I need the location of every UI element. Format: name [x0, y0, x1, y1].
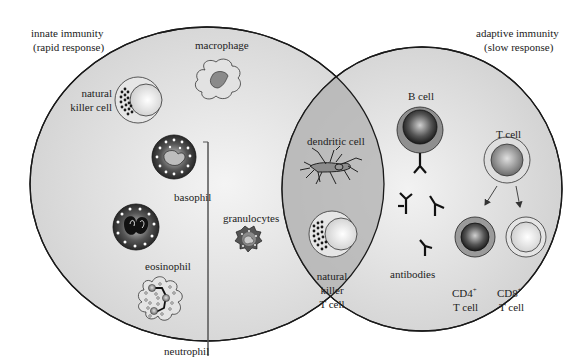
cd8-t-cell-icon — [506, 217, 546, 257]
innate-immunity-sublabel: (rapid response) — [33, 41, 104, 54]
innate-immunity-label: innate immunity — [31, 27, 103, 40]
cd8-t-cell-label: CD8+ — [497, 287, 522, 300]
natural-killer-cell-label-line2: killer cell — [52, 101, 112, 114]
natural-killer-cell-icon — [115, 77, 162, 123]
cd8-label-sup: + — [518, 286, 522, 294]
cd4-label-sup: + — [473, 286, 477, 294]
adaptive-immunity-label: adaptive immunity — [476, 27, 559, 40]
cd4-t-cell-label: CD4+ — [452, 287, 477, 300]
eosinophil-label: eosinophil — [145, 260, 191, 273]
eosinophil-cell-icon — [113, 204, 159, 250]
cd8-label-main: CD8 — [497, 287, 518, 299]
cd4-t-cell-label-line2: T cell — [453, 301, 478, 314]
cd4-t-cell-icon — [455, 217, 495, 257]
macrophage-label: macrophage — [195, 39, 249, 52]
neutrophil-label: neutrophil — [164, 345, 209, 358]
nkt-cell-label-line2: killer — [310, 284, 354, 297]
adaptive-immunity-sublabel: (slow response) — [484, 41, 553, 54]
nkt-cell-label-line1: natural — [310, 270, 354, 283]
cd8-t-cell-label-line2: T cell — [499, 301, 524, 314]
granulocytes-label: granulocytes — [223, 212, 279, 225]
cd4-label-main: CD4 — [452, 287, 473, 299]
dendritic-cell-label: dendritic cell — [307, 135, 365, 148]
basophil-cell-icon — [152, 135, 196, 179]
natural-killer-cell-label-line1: natural — [70, 87, 112, 100]
basophil-label: basophil — [174, 191, 211, 204]
b-cell-label: B cell — [408, 90, 434, 103]
antibodies-label: antibodies — [390, 268, 435, 281]
t-cell-icon — [484, 137, 530, 183]
t-cell-label: T cell — [496, 128, 521, 141]
nkt-cell-label-line3: T cell — [310, 298, 354, 311]
